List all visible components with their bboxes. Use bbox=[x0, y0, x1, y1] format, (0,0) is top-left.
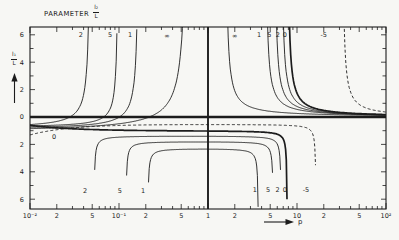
curve-lower-dome-5 bbox=[127, 142, 273, 176]
curve-label: 5 bbox=[108, 31, 112, 39]
up-arrow-icon bbox=[10, 73, 19, 103]
curve-label: -5 bbox=[303, 186, 309, 194]
curve-right-fall--5 bbox=[344, 29, 385, 112]
curve-label: ∞ bbox=[232, 32, 237, 40]
curve-lower-dome-1 bbox=[149, 149, 259, 207]
curve-label: 1 bbox=[141, 187, 145, 195]
parameter-fraction: l₂ L bbox=[93, 5, 99, 19]
curve-label: 5 bbox=[118, 187, 122, 195]
y-axis-fraction-denominator: L bbox=[12, 60, 15, 67]
x-tick-label: 10⁻² bbox=[23, 212, 38, 220]
x-tick-label: 5 bbox=[357, 212, 361, 220]
curve-label: 5 bbox=[266, 186, 270, 194]
x-tick-label: 2 bbox=[55, 212, 59, 220]
curve-label: 1 bbox=[253, 186, 257, 194]
curve-label: 5 bbox=[267, 31, 271, 39]
curve-label: 1 bbox=[128, 31, 132, 39]
x-tick-label: 5 bbox=[179, 212, 183, 220]
x-tick-labels: 10⁻²2510⁻¹25125102510² bbox=[23, 212, 392, 220]
curve-left-rise-∞ bbox=[30, 14, 183, 129]
y-tick-label: 2 bbox=[20, 141, 24, 149]
x-axis-label-text: p bbox=[298, 218, 302, 226]
curve-label: 2 bbox=[79, 31, 83, 39]
curve-right-fall-5 bbox=[276, 19, 386, 115]
y-axis-label: l₁ L bbox=[6, 52, 22, 103]
curve-label: 0 bbox=[52, 133, 56, 141]
curve-right-fall-∞ bbox=[228, 14, 386, 115]
parameter-fraction-denominator: L bbox=[95, 13, 98, 20]
x-tick-label: 5 bbox=[90, 212, 94, 220]
y-tick-label: 6 bbox=[20, 196, 24, 204]
curve-label: 0 bbox=[283, 31, 287, 39]
curve-right-fall-0 bbox=[289, 19, 385, 114]
curve-lower-dome-2 bbox=[95, 136, 281, 170]
y-tick-label: 0 bbox=[20, 113, 24, 121]
curve-left-rise-5 bbox=[30, 33, 117, 126]
curve-right-fall-2 bbox=[283, 19, 386, 115]
curve-label: 1 bbox=[257, 31, 261, 39]
right-arrow-icon bbox=[264, 218, 294, 226]
x-tick-label: 2 bbox=[233, 212, 237, 220]
y-axis-fraction: l₁ L bbox=[11, 52, 17, 66]
curve-left-rise-1 bbox=[30, 29, 137, 127]
x-tick-label: 10² bbox=[381, 212, 392, 220]
curve-label: -5 bbox=[320, 31, 326, 39]
y-tick-label: 6 bbox=[20, 31, 24, 39]
chart-title: PARAMETER l₂ L bbox=[44, 5, 99, 19]
x-tick-label: 2 bbox=[322, 212, 326, 220]
x-tick-label: 2 bbox=[144, 212, 148, 220]
y-axis-fraction-numerator: l₁ bbox=[11, 52, 17, 60]
chart-title-text: PARAMETER bbox=[44, 5, 89, 18]
curve-label: 0 bbox=[283, 186, 287, 194]
parameter-fraction-numerator: l₂ bbox=[93, 5, 99, 13]
curve-label: 2 bbox=[276, 31, 280, 39]
curve-label: 2 bbox=[276, 186, 280, 194]
figure: 10⁻²2510⁻¹25125102510²6420246251∞∞1520-5… bbox=[0, 0, 399, 240]
x-axis-label: p bbox=[264, 218, 302, 226]
x-tick-label: 1 bbox=[206, 212, 210, 220]
x-tick-label: 10⁻¹ bbox=[112, 212, 127, 220]
curve-label: ∞ bbox=[164, 32, 169, 40]
curve-left-rise-2 bbox=[30, 25, 88, 125]
plot-svg: 10⁻²2510⁻¹25125102510²6420246251∞∞1520-5… bbox=[0, 0, 399, 240]
y-tick-label: 4 bbox=[20, 168, 24, 176]
curve-label: 2 bbox=[83, 187, 87, 195]
